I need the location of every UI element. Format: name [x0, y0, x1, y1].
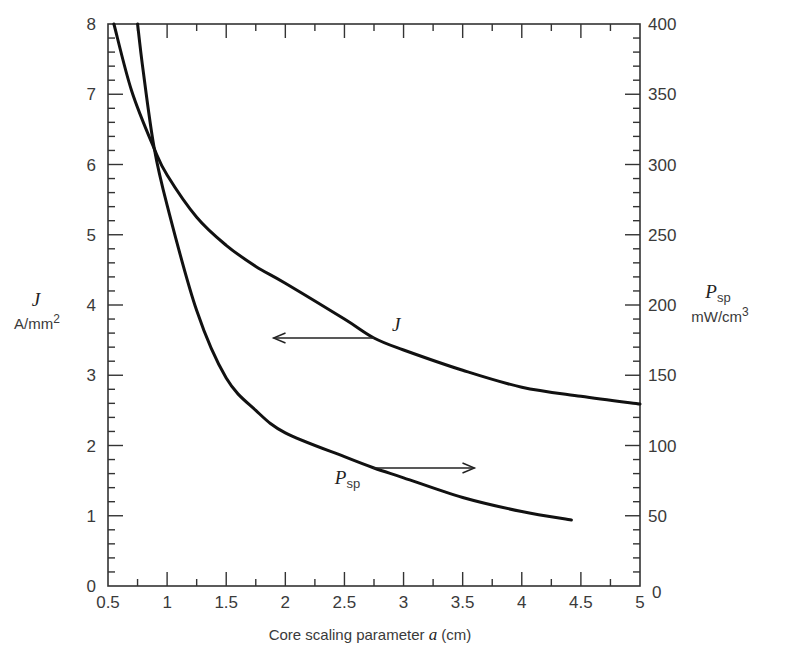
x-tick-label: 1 [162, 593, 171, 612]
right-y-tick-label: 350 [648, 85, 676, 104]
axis-ticks [108, 24, 640, 586]
right-y-var: Psp [704, 281, 730, 305]
left-y-tick-label: 1 [87, 507, 96, 526]
series-j-curve [114, 24, 640, 404]
plot-frame [108, 24, 640, 586]
left-y-var: J [32, 289, 42, 310]
x-tick-label: 2.5 [333, 593, 357, 612]
x-tick-label: 4.5 [569, 593, 593, 612]
right-y-tick-label: 400 [648, 15, 676, 34]
x-tick-label: 0.5 [96, 593, 120, 612]
series-p-sp-curve [138, 24, 572, 520]
curve-annotations: JPsp [274, 314, 475, 491]
left-y-unit: A/mm2 [14, 312, 60, 332]
left-y-tick-label: 7 [87, 85, 96, 104]
left-y-tick-label: 6 [87, 156, 96, 175]
right-y-tick-label: 150 [648, 366, 676, 385]
x-tick-label: 3 [399, 593, 408, 612]
right-y-unit: mW/cm3 [691, 305, 749, 325]
right-y-tick-label: 100 [648, 437, 676, 456]
data-series [114, 24, 640, 520]
left-y-tick-label: 2 [87, 437, 96, 456]
right-y-axis-title: Psp mW/cm3 [691, 281, 749, 325]
label-j: J [392, 314, 402, 335]
right-y-tick-label: 0 [652, 583, 661, 602]
left-y-axis-title: J A/mm2 [14, 289, 60, 332]
left-y-tick-label: 8 [87, 15, 96, 34]
x-tick-label: 4 [517, 593, 526, 612]
label-psp: Psp [334, 467, 360, 491]
x-tick-label: 1.5 [214, 593, 238, 612]
right-y-tick-label: 50 [648, 507, 667, 526]
axis-tick-labels: 0.511.522.533.544.5501234567805010015020… [87, 15, 677, 612]
chart-canvas: 0.511.522.533.544.5501234567805010015020… [0, 0, 793, 658]
plot-border [108, 24, 640, 586]
arrow-j-to-left-axis [274, 333, 374, 343]
left-y-tick-label: 4 [87, 296, 96, 315]
right-y-tick-label: 250 [648, 226, 676, 245]
x-tick-label: 2 [281, 593, 290, 612]
left-y-tick-label: 3 [87, 366, 96, 385]
left-y-tick-label: 5 [87, 226, 96, 245]
x-tick-label: 3.5 [451, 593, 475, 612]
x-axis-title: Core scaling parameter a (cm) [269, 625, 472, 644]
x-tick-label: 5 [635, 593, 644, 612]
right-y-tick-label: 300 [648, 156, 676, 175]
left-y-tick-label: 0 [87, 577, 96, 596]
chart: 0.511.522.533.544.5501234567805010015020… [0, 0, 793, 658]
right-y-tick-label: 200 [648, 296, 676, 315]
